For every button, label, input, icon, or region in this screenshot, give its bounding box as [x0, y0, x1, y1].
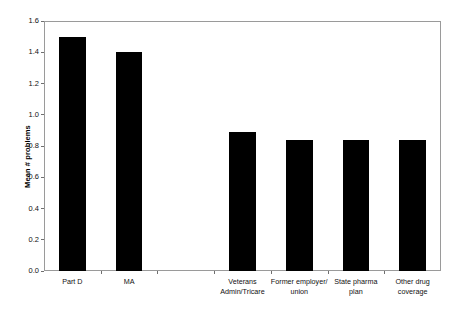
y-tick-mark — [41, 146, 44, 147]
x-tick-mark — [214, 271, 215, 274]
x-tick-label: MA — [101, 277, 158, 287]
y-tick-mark — [41, 271, 44, 272]
x-tick-mark — [271, 271, 272, 274]
y-tick-mark — [41, 239, 44, 240]
y-tick-label: 0.6 — [29, 171, 39, 182]
y-tick-label: 1.4 — [29, 46, 39, 57]
bar-chart: Mean # problems 0.00.20.40.60.81.01.21.4… — [0, 0, 452, 313]
x-tick-label: Part D — [44, 277, 101, 287]
x-tick-mark — [328, 271, 329, 274]
y-tick-mark — [41, 177, 44, 178]
x-tick-label: Veterans Admin/Tricare — [214, 277, 271, 296]
bar — [399, 140, 426, 271]
y-tick-label: 1.0 — [29, 109, 39, 120]
x-tick-mark — [101, 271, 102, 274]
y-tick-mark — [41, 208, 44, 209]
bar — [229, 132, 256, 271]
bar — [59, 37, 86, 271]
y-tick-label: 0.2 — [29, 234, 39, 245]
y-tick-label: 0.0 — [29, 265, 39, 276]
bar — [286, 140, 313, 271]
y-tick-mark — [41, 21, 44, 22]
y-tick-label: 1.6 — [29, 15, 39, 26]
x-tick-mark — [384, 271, 385, 274]
x-tick-label: Former employer/ union — [271, 277, 328, 296]
bar — [116, 52, 143, 271]
y-tick-label: 0.8 — [29, 140, 39, 151]
x-tick-label: State pharma plan — [328, 277, 385, 296]
y-tick-mark — [41, 83, 44, 84]
y-tick-mark — [41, 52, 44, 53]
x-tick-mark — [157, 271, 158, 274]
y-tick-label: 1.2 — [29, 78, 39, 89]
bar — [343, 140, 370, 271]
x-tick-label: Other drug coverage — [384, 277, 441, 296]
y-tick-label: 0.4 — [29, 203, 39, 214]
y-tick-mark — [41, 114, 44, 115]
